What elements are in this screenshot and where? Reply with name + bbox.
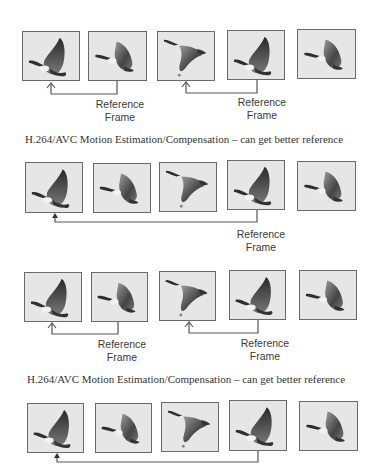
goose-image-icon (28, 404, 83, 452)
video-frame (299, 270, 357, 320)
goose-image-icon (94, 164, 150, 212)
goose-image-icon (162, 403, 218, 451)
reference-frame-label: ReferenceFrame (225, 337, 305, 362)
goose-image-icon (230, 401, 286, 450)
reference-frame-label: ReferenceFrame (222, 96, 302, 121)
goose-image-icon (89, 32, 146, 80)
goose-image-icon (300, 271, 356, 319)
goose-image-icon (300, 402, 357, 450)
goose-image-icon (92, 273, 147, 321)
video-frame (297, 29, 356, 79)
video-frame (159, 271, 216, 321)
goose-image-icon (96, 404, 151, 452)
goose-image-icon (298, 30, 355, 78)
video-frame (88, 31, 147, 81)
goose-image-icon (228, 31, 284, 79)
video-frame (22, 31, 80, 81)
video-frame (299, 401, 358, 451)
video-frame (229, 270, 286, 320)
video-frame (91, 272, 148, 322)
goose-image-icon (25, 273, 81, 321)
video-frame (229, 400, 287, 451)
reference-frame-label: ReferenceFrame (221, 228, 301, 253)
video-frame (25, 162, 83, 213)
goose-image-icon (228, 161, 284, 209)
goose-image-icon (26, 163, 82, 212)
video-frame (227, 160, 285, 210)
goose-image-icon (298, 162, 355, 210)
video-frame (24, 272, 82, 322)
goose-image-icon (160, 163, 216, 211)
video-frame (157, 31, 215, 81)
goose-image-icon (23, 32, 79, 80)
goose-image-icon (160, 272, 215, 320)
video-frame (227, 30, 285, 80)
video-frame (159, 162, 217, 212)
video-frame (27, 403, 84, 453)
video-frame (161, 402, 219, 452)
reference-frame-label: ReferenceFrame (80, 98, 160, 123)
reference-frame-label: ReferenceFrame (82, 338, 162, 363)
video-frame (93, 163, 151, 213)
figure-caption: H.264/AVC Motion Estimation/Compensation… (27, 373, 345, 385)
goose-image-icon (158, 32, 214, 80)
video-frame (297, 161, 356, 211)
video-frame (95, 403, 152, 453)
goose-image-icon (230, 271, 285, 319)
figure-caption: H.264/AVC Motion Estimation/Compensation… (25, 133, 343, 145)
